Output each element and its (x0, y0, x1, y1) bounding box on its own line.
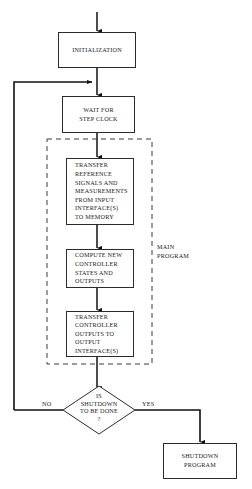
node-transfer-outputs[interactable]: TRANSFER CONTROLLER OUTPUTS TO OUTPUT IN… (66, 311, 134, 357)
node-shutdown-program[interactable]: SHUTDOWN PROGRAM (163, 443, 237, 479)
edge-label-yes: YES (142, 400, 154, 408)
node-initialization-label: INITIALIZATION (72, 46, 122, 55)
connector-yes-branch (135, 410, 200, 442)
main-program-group-label: MAIN PROGRAM (157, 243, 189, 260)
node-transfer-outputs-label: TRANSFER CONTROLLER OUTPUTS TO OUTPUT IN… (67, 313, 133, 356)
node-compute-controller[interactable]: COMPUTE NEW CONTROLLER STATES AND OUTPUT… (66, 249, 134, 288)
edge-label-no: NO (42, 400, 51, 408)
node-wait-for-step-clock[interactable]: WAIT FOR STEP CLOCK (62, 96, 135, 133)
node-initialization[interactable]: INITIALIZATION (58, 32, 136, 68)
node-compute-controller-label: COMPUTE NEW CONTROLLER STATES AND OUTPUT… (67, 251, 133, 285)
shutdown-decision-label: IS SHUTDOWN TO BE DONE ? (63, 392, 135, 422)
node-transfer-reference-label: TRANSFER REFERENCE SIGNALS AND MEASUREME… (67, 161, 133, 221)
node-wait-for-step-clock-label: WAIT FOR STEP CLOCK (79, 106, 118, 123)
node-transfer-reference[interactable]: TRANSFER REFERENCE SIGNALS AND MEASUREME… (66, 158, 134, 225)
flowchart-canvas: INITIALIZATION WAIT FOR STEP CLOCK TRANS… (0, 0, 252, 489)
node-shutdown-program-label: SHUTDOWN PROGRAM (182, 452, 219, 469)
